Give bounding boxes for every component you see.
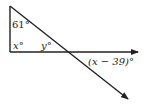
label-61: 61°: [12, 19, 30, 30]
angle-diagram: 61° x° y° (x − 39)°: [0, 0, 147, 109]
label-y: y°: [40, 40, 52, 51]
label-x-minus-39: (x − 39)°: [88, 56, 134, 67]
label-x: x°: [13, 40, 24, 51]
